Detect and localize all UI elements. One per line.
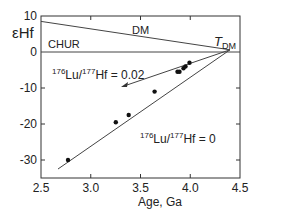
y-tick-label: -10 — [20, 81, 38, 95]
x-tick-label: 2.5 — [33, 181, 50, 195]
x-tick-labels: 2.5 3.0 3.5 4.0 4.5 — [33, 181, 249, 195]
x-tick-label: 3.0 — [82, 181, 99, 195]
lu-hf-002-label: 176Lu/177Hf = 0.02 — [52, 67, 145, 82]
x-tick-label: 4.5 — [232, 181, 249, 195]
arrow-head-icon — [121, 82, 128, 87]
lu-hf-0-label: 176Lu/177Hf = 0 — [140, 131, 216, 146]
tdm-label: TDM — [214, 34, 236, 51]
y-tick-label: -20 — [20, 117, 38, 131]
x-tick-label: 3.5 — [132, 181, 149, 195]
x-tick-label: 4.0 — [182, 181, 199, 195]
y-ticks — [41, 88, 240, 160]
dm-label: DM — [132, 24, 149, 36]
chur-label: CHUR — [48, 38, 80, 50]
x-axis-title: Age, Ga — [138, 195, 182, 209]
y-tick-label: -30 — [20, 153, 38, 167]
y-axis-title: εHf — [12, 24, 35, 41]
hf-evolution-chart: 10 0 -10 -20 -30 2.5 3.0 3.5 4.0 4.5 εHf… — [0, 0, 288, 213]
y-tick-label: 0 — [30, 45, 37, 59]
y-tick-label: 10 — [24, 9, 38, 23]
x-ticks — [91, 16, 191, 178]
